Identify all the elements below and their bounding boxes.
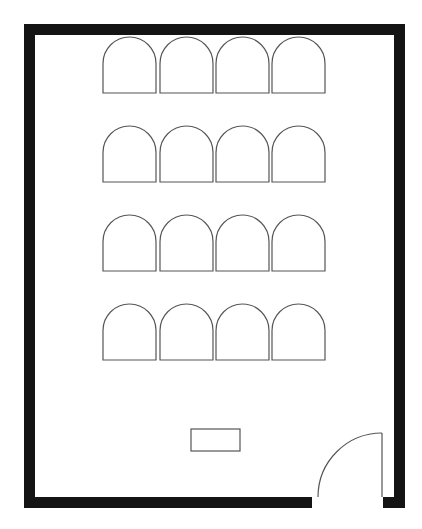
chair-r4-c4 (272, 304, 325, 360)
chair-r2-c1 (103, 126, 156, 182)
wall-top (24, 24, 405, 35)
chair-r1-c1 (103, 37, 156, 93)
chair-r4-c2 (160, 304, 213, 360)
chair-r2-c3 (216, 126, 269, 182)
seating-area (103, 37, 325, 360)
chair-r3-c3 (216, 215, 269, 271)
chair-r2-c4 (272, 126, 325, 182)
chair-r3-c2 (160, 215, 213, 271)
desk-rect (191, 429, 240, 451)
door (318, 433, 382, 497)
floor-plan (0, 0, 422, 529)
chair-r4-c1 (103, 304, 156, 360)
teacher-desk (191, 429, 240, 451)
chair-r3-c4 (272, 215, 325, 271)
wall-right (394, 24, 405, 508)
chair-r2-c2 (160, 126, 213, 182)
chair-r3-c1 (103, 215, 156, 271)
door-swing-arc (318, 433, 382, 497)
wall-bottom-right (383, 497, 405, 508)
chair-r4-c3 (216, 304, 269, 360)
wall-left (24, 24, 35, 508)
chair-r1-c4 (272, 37, 325, 93)
wall-bottom-left (24, 497, 312, 508)
chair-r1-c2 (160, 37, 213, 93)
chair-r1-c3 (216, 37, 269, 93)
